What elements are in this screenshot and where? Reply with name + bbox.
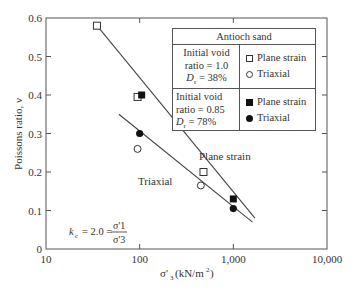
svg-text:σ'3: σ'3 bbox=[113, 234, 125, 245]
legend-condition-loose: Initial void ratio = 1.0 Dr = 38% bbox=[173, 45, 240, 88]
condition-line: ratio = 0.85 bbox=[176, 104, 237, 117]
legend-box: Antioch sand Initial void ratio = 1.0 Dr… bbox=[172, 28, 316, 131]
legend-item-plane-strain-filled: Plane strain bbox=[246, 94, 315, 110]
y-tick-label: 0.3 bbox=[28, 128, 42, 140]
svg-text:3: 3 bbox=[170, 274, 174, 282]
y-tick-label: 0.6 bbox=[28, 12, 42, 24]
svg-text:σ': σ' bbox=[160, 267, 168, 279]
condition-line: Initial void bbox=[176, 91, 237, 104]
svg-text:k: k bbox=[69, 226, 74, 237]
svg-text:(kN/m: (kN/m bbox=[175, 267, 204, 280]
open-circle-icon bbox=[246, 71, 253, 78]
svg-text:= 2.0 =: = 2.0 = bbox=[82, 226, 112, 237]
filled-circle-icon bbox=[246, 115, 253, 122]
y-tick-label: 0.1 bbox=[28, 205, 42, 217]
legend-group-loose: Initial void ratio = 1.0 Dr = 38% Plane … bbox=[173, 45, 315, 88]
open-square-marker bbox=[200, 169, 207, 176]
legend-title: Antioch sand bbox=[173, 29, 315, 45]
filled-square-marker bbox=[138, 92, 145, 99]
legend-item-plane-strain-open: Plane strain bbox=[246, 50, 315, 66]
y-tick-label: 0.2 bbox=[28, 166, 42, 178]
x-tick-label: 1,000 bbox=[221, 253, 246, 265]
open-square-marker bbox=[93, 22, 100, 29]
filled-circle-marker bbox=[230, 205, 237, 212]
x-tick-label: 100 bbox=[131, 253, 148, 265]
filled-square-icon bbox=[246, 99, 253, 106]
svg-text:σ'1: σ'1 bbox=[113, 220, 125, 231]
annotation-plane-strain: Plane strain bbox=[199, 150, 251, 162]
x-tick-label: 10,000 bbox=[312, 253, 343, 265]
x-tick-label: 10 bbox=[41, 253, 53, 265]
annotation-triaxial: Triaxial bbox=[138, 175, 172, 187]
x-axis-label: σ' 3 (kN/m 2 ) bbox=[160, 266, 214, 282]
legend-group-dense: Initial void ratio = 0.85 Dr = 78% Plane… bbox=[173, 88, 315, 131]
svg-text:c: c bbox=[75, 232, 78, 240]
condition-line: ratio = 1.0 bbox=[176, 60, 237, 73]
relative-density: Dr = 78% bbox=[176, 116, 237, 133]
legend-condition-dense: Initial void ratio = 0.85 Dr = 78% bbox=[173, 89, 240, 131]
open-circle-marker bbox=[197, 182, 204, 189]
filled-circle-marker bbox=[136, 130, 143, 137]
open-circle-marker bbox=[134, 145, 141, 152]
y-axis-label: Poissons ratio, ν bbox=[12, 98, 24, 170]
filled-square-marker bbox=[230, 195, 237, 202]
y-tick-label: 0.4 bbox=[28, 89, 42, 101]
condition-line: Initial void bbox=[176, 47, 237, 60]
legend-item-triaxial-filled: Triaxial bbox=[246, 110, 315, 126]
legend-item-triaxial-open: Triaxial bbox=[246, 66, 315, 82]
relative-density: Dr = 38% bbox=[176, 72, 237, 89]
svg-text:): ) bbox=[210, 267, 214, 280]
open-square-icon bbox=[246, 55, 253, 62]
kc-formula: k c = 2.0 = σ'1 σ'3 bbox=[69, 220, 127, 245]
y-tick-label: 0.5 bbox=[28, 51, 42, 63]
